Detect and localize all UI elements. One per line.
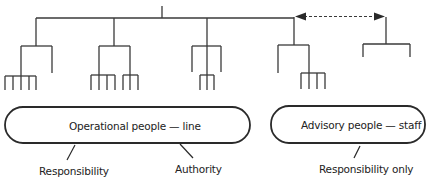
arrowhead-right-icon [374, 13, 385, 21]
responsibility-only-pointer [354, 146, 360, 158]
authority-label: Authority [175, 163, 222, 175]
staff-group-label: Advisory people — staff [301, 119, 421, 131]
staff-hierarchy [363, 17, 410, 57]
responsibility-pointer [67, 145, 75, 160]
dashed-arrow-connector [295, 13, 385, 21]
authority-pointer [180, 144, 193, 158]
arrowhead-left-icon [295, 13, 306, 21]
responsibility-label: Responsibility [39, 165, 109, 177]
line-group-label: Operational people — line [69, 120, 201, 132]
org-chart [0, 0, 436, 183]
responsibility-only-label: Responsibility only [319, 163, 413, 175]
line-hierarchy [5, 6, 325, 90]
